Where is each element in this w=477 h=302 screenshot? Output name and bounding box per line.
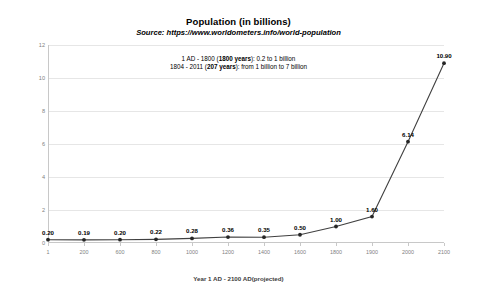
y-tick-label: 12 (30, 42, 48, 48)
data-point-marker (154, 237, 158, 241)
y-axis-labels: 024681012 (22, 45, 48, 243)
x-tick-label: 1400 (258, 249, 270, 255)
x-tick-label: 800 (152, 249, 161, 255)
x-tick-label: 2000 (402, 249, 414, 255)
y-tick-label: 0 (30, 240, 48, 246)
x-tick-label: 200 (80, 249, 89, 255)
y-tick-label: 10 (30, 75, 48, 81)
series-markers (46, 61, 446, 242)
data-point-marker (118, 238, 122, 242)
data-point-marker (190, 236, 194, 240)
x-tick-label: 1 (47, 249, 50, 255)
series-polyline (48, 63, 444, 240)
data-point-label: 0.22 (150, 228, 162, 235)
x-tick-mark (336, 243, 337, 246)
data-point-label: 1.00 (330, 216, 342, 223)
data-point-label: 6.14 (402, 131, 414, 138)
x-tick-label: 1200 (222, 249, 234, 255)
y-tick-label: 4 (30, 174, 48, 180)
data-point-marker (226, 235, 230, 239)
data-point-marker (298, 233, 302, 237)
data-point-label: 10.90 (436, 52, 451, 59)
data-point-marker (82, 238, 86, 242)
data-point-label: 0.50 (294, 224, 306, 231)
x-tick-mark (48, 243, 49, 246)
x-tick-label: 600 (116, 249, 125, 255)
data-point-label: 0.36 (222, 226, 234, 233)
chart-source-subtitle: Source: https://www.worldometers.info/wo… (0, 28, 477, 37)
x-tick-label: 2100 (438, 249, 450, 255)
chart-page: Population (in billions) Source: https:/… (0, 0, 477, 302)
data-point-marker (262, 235, 266, 239)
x-axis-title: Year 1 AD - 2100 AD(projected) (0, 275, 477, 282)
x-tick-mark (372, 243, 373, 246)
x-tick-label: 1800 (330, 249, 342, 255)
data-point-label: 0.20 (42, 229, 54, 236)
x-tick-mark (408, 243, 409, 246)
data-point-marker (370, 215, 374, 219)
x-tick-mark (264, 243, 265, 246)
y-tick-label: 2 (30, 207, 48, 213)
x-tick-mark (120, 243, 121, 246)
data-point-label: 1.60 (366, 206, 378, 213)
x-tick-label: 1600 (294, 249, 306, 255)
data-point-marker (406, 140, 410, 144)
page-title: Population (in billions) (0, 16, 477, 27)
x-tick-mark (156, 243, 157, 246)
y-tick-label: 6 (30, 141, 48, 147)
x-tick-mark (300, 243, 301, 246)
data-point-marker (334, 225, 338, 229)
x-tick-mark (192, 243, 193, 246)
data-point-marker (442, 61, 446, 65)
data-point-label: 0.19 (78, 229, 90, 236)
x-tick-label: 1000 (186, 249, 198, 255)
data-point-label: 0.28 (186, 227, 198, 234)
x-tick-mark (444, 243, 445, 246)
x-tick-label: 1900 (366, 249, 378, 255)
data-point-label: 0.35 (258, 226, 270, 233)
population-series (48, 45, 444, 243)
y-tick-label: 8 (30, 108, 48, 114)
data-point-marker (46, 238, 50, 242)
x-tick-mark (84, 243, 85, 246)
x-tick-mark (228, 243, 229, 246)
data-point-label: 0.20 (114, 229, 126, 236)
